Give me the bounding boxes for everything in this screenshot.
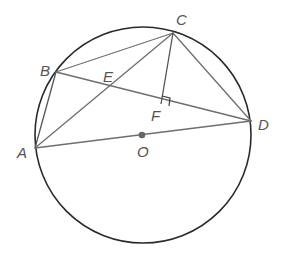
segment-ac: [35, 33, 173, 148]
label-c: C: [176, 11, 187, 28]
label-f: F: [151, 107, 161, 124]
segment-cf: [161, 33, 173, 104]
label-b: B: [40, 62, 50, 79]
label-d: D: [258, 116, 269, 133]
center-point-o: [139, 132, 146, 139]
label-o: O: [137, 143, 149, 160]
label-e: E: [103, 68, 114, 85]
segment-cd: [173, 33, 251, 121]
geometry-diagram: A B C D E F O: [0, 0, 281, 262]
label-a: A: [16, 144, 27, 161]
